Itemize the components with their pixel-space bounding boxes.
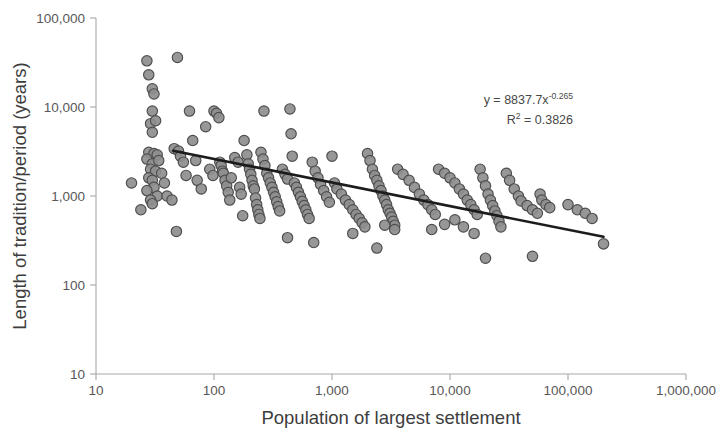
x-axis: 101001,00010,000100,0001,000,000 Populat… [88,374,716,428]
scatter-point [144,70,154,80]
scatter-point [427,224,437,234]
x-tick-label: 10,000 [429,383,470,398]
y-tick-label: 100,000 [36,11,85,26]
scatter-point [469,228,479,238]
scatter-point [480,253,490,263]
y-tick-label: 10 [70,367,85,382]
scatter-point [304,213,314,223]
scatter-point [327,151,337,161]
scatter-point [282,233,292,243]
scatter-point [154,155,164,165]
scatter-point [147,198,157,208]
scatter-point [188,135,198,145]
regression-annotation: y = 8837.7x-0.265 R2 = 0.3826 [484,91,574,127]
scatter-point [147,106,157,116]
scatter-point [309,237,319,247]
x-axis-title: Population of largest settlement [261,407,520,428]
x-tick-label: 10 [88,383,103,398]
scatter-point [380,220,390,230]
scatter-point [430,209,440,219]
scatter-point [167,195,177,205]
scatter-point [372,243,382,253]
scatter-point [287,151,297,161]
scatter-plot: 101001,00010,000100,000 Length of tradit… [0,0,723,433]
scatter-point [147,127,157,137]
scatter-point [545,202,555,212]
y-tick-label: 10,000 [44,100,85,115]
scatter-point [598,239,608,249]
y-axis-title: Length of tradition/period (years) [9,62,30,329]
scatter-point [142,56,152,66]
scatter-point [225,195,235,205]
scatter-point [142,185,152,195]
scatter-point [200,122,210,132]
scatter-point [136,205,146,215]
scatter-point [439,219,449,229]
scatter-point [348,228,358,238]
y-axis-tick-labels: 101001,00010,000100,000 [36,11,85,382]
scatter-point [285,104,295,114]
scatter-point [236,189,246,199]
scatter-point [149,89,159,99]
x-axis-tick-labels: 101001,00010,000100,0001,000,000 [88,383,716,398]
scatter-point [184,106,194,116]
scatter-point [159,178,169,188]
scatter-point [208,170,218,180]
scatter-point [181,170,191,180]
scatter-point [458,222,468,232]
scatter-point [450,215,460,225]
scatter-point [126,178,136,188]
scatter-point [360,222,370,232]
r-squared-text: R2 = 0.3826 [507,111,573,127]
scatter-point [324,197,334,207]
x-tick-label: 1,000 [315,383,349,398]
scatter-point [390,224,400,234]
scatter-point [532,208,542,218]
scatter-point [237,211,247,221]
scatter-point [239,135,249,145]
scatter-point [150,116,160,126]
scatter-point [196,184,206,194]
y-axis: 101001,00010,000100,000 Length of tradit… [9,11,96,382]
x-tick-label: 100,000 [544,383,593,398]
scatter-point [156,168,166,178]
scatter-point [274,206,284,216]
scatter-point [255,213,265,223]
scatter-point [178,157,188,167]
chart-figure: 101001,00010,000100,000 Length of tradit… [0,0,723,433]
scatter-point [286,129,296,139]
y-axis-ticks [90,18,96,374]
scatter-point [587,213,597,223]
scatter-points [126,52,608,263]
x-axis-ticks [96,374,686,380]
scatter-point [527,251,537,261]
scatter-point [172,52,182,62]
scatter-point [171,226,181,236]
x-tick-label: 1,000,000 [656,383,716,398]
x-tick-label: 100 [203,383,226,398]
regression-equation-text: y = 8837.7x-0.265 [484,91,574,107]
scatter-point [259,106,269,116]
scatter-point [496,222,506,232]
y-tick-label: 1,000 [51,189,85,204]
scatter-point [563,199,573,209]
scatter-point [214,112,224,122]
scatter-point [226,173,236,183]
y-tick-label: 100 [62,278,85,293]
